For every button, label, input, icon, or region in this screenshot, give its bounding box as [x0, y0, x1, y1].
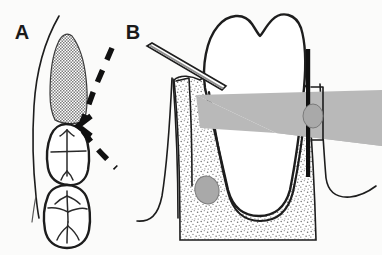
- lesion-oval-right: [303, 104, 323, 128]
- panel-a-label: A: [15, 21, 29, 43]
- dental-illustration-svg: A: [0, 0, 382, 255]
- panel-b-label: B: [126, 21, 140, 43]
- figure-container: A: [0, 0, 382, 255]
